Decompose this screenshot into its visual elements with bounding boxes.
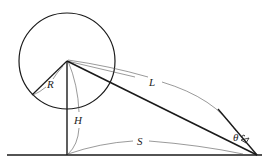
- radius-label: R: [46, 78, 54, 90]
- distance-dimension-arc: [68, 141, 243, 154]
- height-label: H: [73, 114, 83, 126]
- geometry-diagram: R H L S θ: [0, 0, 269, 164]
- center-to-edge-line: [67, 61, 135, 77]
- distance-label: S: [137, 135, 143, 147]
- angle-label: θ: [233, 131, 239, 143]
- length-dimension-arc: [68, 60, 236, 131]
- angle-arc: [241, 135, 245, 137]
- length-line: [67, 61, 257, 155]
- length-label: L: [148, 76, 155, 88]
